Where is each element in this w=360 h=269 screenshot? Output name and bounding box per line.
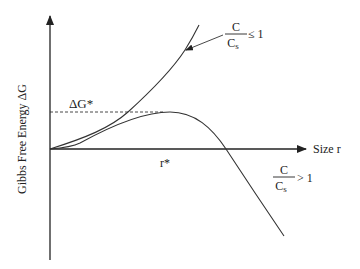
ratio-numerator: C <box>280 163 288 177</box>
leader-arrow <box>186 35 223 50</box>
curve-supersaturated <box>50 112 284 236</box>
curve-undersaturated <box>50 25 199 149</box>
y-axis-label: Gibbs Free Energy ΔG <box>15 84 29 194</box>
ratio-label-supersaturated: C Cs > 1 <box>273 163 313 194</box>
ratio-relation: > 1 <box>297 171 313 185</box>
ratio-denominator: Cs <box>227 36 239 51</box>
ratio-relation: ≤ 1 <box>248 27 264 41</box>
nucleation-diagram: Gibbs Free Energy ΔG ΔG* r* Size r C Cs … <box>0 0 360 269</box>
ratio-denominator: Cs <box>275 179 287 194</box>
x-axis-label: Size r <box>313 142 341 156</box>
critical-radius-label: r* <box>160 156 170 170</box>
barrier-label: ΔG* <box>69 96 93 111</box>
ratio-numerator: C <box>232 20 240 34</box>
ratio-label-undersaturated: C Cs ≤ 1 <box>225 20 264 51</box>
